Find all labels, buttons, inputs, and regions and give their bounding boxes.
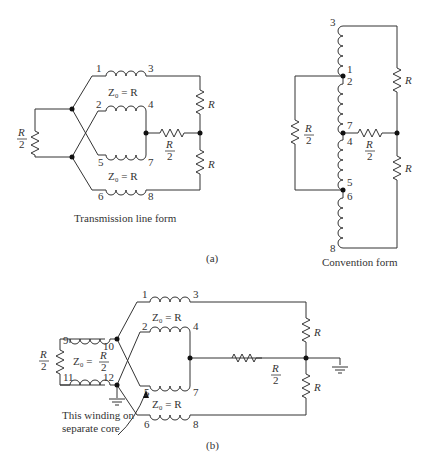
circuit-figure: 1 3 2 4 5 7 6 8 Z₀ = R Z₀ = R R R R 2 R … <box>0 0 432 471</box>
winding-1-3 <box>150 297 190 302</box>
ground-icon <box>332 367 348 373</box>
winding-4-5 <box>338 140 343 190</box>
junction-dot <box>115 383 120 388</box>
terminal-1: 1 <box>347 63 353 75</box>
source-resistor <box>291 120 299 144</box>
terminal-1: 1 <box>96 62 102 74</box>
winding-3-1 <box>338 26 343 76</box>
z0-balun-den: 2 <box>101 361 107 373</box>
junction-dot <box>70 155 75 160</box>
z0-label-bottom: Z₀ = R <box>152 398 182 410</box>
winding-2-7 <box>338 84 343 134</box>
terminal-8: 8 <box>193 418 199 430</box>
source-num: R <box>39 348 47 360</box>
junction-dot <box>144 131 149 136</box>
load-resistor-bottom <box>196 150 204 174</box>
caption-transmission-line-form: Transmission line form <box>74 212 177 224</box>
junction-dot <box>341 188 346 193</box>
panel-b-label: (b) <box>206 439 219 452</box>
mid-resistor-num: R <box>271 362 279 374</box>
z0-balun-prefix: Z₀ = <box>73 355 93 367</box>
mid-resistor-den: 2 <box>367 150 373 162</box>
load-resistor-top <box>393 68 401 92</box>
mid-resistor-den: 2 <box>273 374 279 386</box>
winding-5-7 <box>150 386 190 391</box>
winding-6-8 <box>106 190 146 195</box>
load-resistor-bottom <box>393 156 401 180</box>
load-bottom-label: R <box>404 162 412 174</box>
terminal-5: 5 <box>347 176 353 188</box>
winding-6-8 <box>338 198 343 248</box>
junction-dot <box>188 356 193 361</box>
load-resistor-top <box>196 90 204 114</box>
terminal-5: 5 <box>144 386 150 398</box>
terminal-6: 6 <box>98 190 104 202</box>
source-den: 2 <box>41 360 47 372</box>
source-num: R <box>304 122 312 134</box>
terminal-7: 7 <box>148 156 154 168</box>
terminal-3: 3 <box>193 288 199 300</box>
terminal-9: 9 <box>63 334 69 346</box>
source-num: R <box>17 126 25 138</box>
z0-label-bottom: Z₀ = R <box>108 170 138 182</box>
mid-resistor <box>160 129 184 137</box>
ground-icon <box>109 399 125 405</box>
mid-resistor-num: R <box>165 138 173 150</box>
winding-5-7 <box>106 155 146 160</box>
terminal-4: 4 <box>193 320 199 332</box>
mid-resistor-den: 2 <box>167 150 173 162</box>
z0-label-top: Z₀ = R <box>152 311 182 323</box>
source-den: 2 <box>306 134 312 146</box>
panel-a-label: (a) <box>206 252 219 265</box>
terminal-11: 11 <box>63 371 74 383</box>
source-resistor <box>31 131 39 155</box>
annotation-line-2: separate core <box>62 422 120 434</box>
terminal-2: 2 <box>96 98 102 110</box>
load-bottom-label: R <box>313 381 321 393</box>
load-resistor-bottom <box>302 374 310 398</box>
terminal-4: 4 <box>148 98 154 110</box>
load-top-label: R <box>313 326 321 338</box>
junction-dot <box>341 131 346 136</box>
terminal-7: 7 <box>193 386 199 398</box>
terminal-2: 2 <box>347 75 353 87</box>
winding-1-3 <box>106 71 146 76</box>
z0-balun-num: R <box>99 349 107 361</box>
terminal-7: 7 <box>347 119 353 131</box>
terminal-6: 6 <box>144 418 150 430</box>
z0-label-top: Z₀ = R <box>108 86 138 98</box>
load-top-label: R <box>404 74 412 86</box>
winding-6-8 <box>150 415 190 420</box>
mid-resistor <box>232 354 256 362</box>
annotation-line-1: This winding on <box>62 409 135 421</box>
terminal-5: 5 <box>98 156 104 168</box>
terminal-4: 4 <box>347 135 353 147</box>
terminal-8: 8 <box>330 242 336 254</box>
terminal-6: 6 <box>347 190 353 202</box>
mid-resistor <box>358 129 382 137</box>
terminal-1: 1 <box>142 288 148 300</box>
source-den: 2 <box>19 138 25 150</box>
load-top-label: R <box>207 98 215 110</box>
junction-dot <box>304 356 309 361</box>
junction-dot <box>198 131 203 136</box>
load-bottom-label: R <box>207 158 215 170</box>
winding-2-4 <box>150 327 190 332</box>
winding-2-4 <box>106 106 146 111</box>
caption-convention-form: Convention form <box>322 256 398 268</box>
terminal-3: 3 <box>148 62 154 74</box>
junction-dot <box>115 337 120 342</box>
mid-resistor-num: R <box>365 138 373 150</box>
junction-dot <box>395 131 400 136</box>
junction-dot <box>70 107 75 112</box>
terminal-3: 3 <box>330 16 336 28</box>
terminal-8: 8 <box>148 190 154 202</box>
junction-dot <box>341 74 346 79</box>
load-resistor-top <box>302 318 310 342</box>
terminal-2: 2 <box>142 320 148 332</box>
